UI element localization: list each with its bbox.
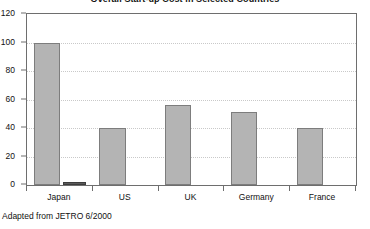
bar — [297, 128, 323, 185]
bar-group — [290, 14, 356, 185]
bar-group — [93, 14, 159, 185]
y-tick-label: 0 — [10, 180, 15, 189]
x-tick-label-france: France — [309, 192, 335, 203]
bar-group — [27, 14, 93, 185]
x-tick-mark — [289, 186, 290, 191]
chart-figure: Overall Start-up Cost in Selected Countr… — [0, 0, 370, 229]
y-tick-label: 120 — [1, 9, 15, 18]
x-tick-label-japan: Japan — [47, 192, 70, 203]
bar — [99, 128, 125, 185]
y-tick-label: 20 — [6, 151, 15, 160]
y-axis: 020406080100120 — [0, 13, 22, 186]
x-axis: JapanUSUKGermanyFrance — [26, 192, 357, 206]
bar — [34, 43, 60, 186]
bar-group — [224, 14, 290, 185]
y-tick-label: 100 — [1, 37, 15, 46]
y-tick-label: 80 — [6, 66, 15, 75]
x-tick-mark — [92, 186, 93, 191]
x-tick-label-us: US — [119, 192, 131, 203]
source-note: Adapted from JETRO 6/2000 — [2, 211, 112, 222]
x-tick-label-germany: Germany — [239, 192, 274, 203]
x-tick-mark — [355, 186, 356, 191]
y-tick-label: 60 — [6, 94, 15, 103]
x-tick-mark — [223, 186, 224, 191]
plot-area — [26, 13, 357, 186]
bar — [231, 112, 257, 185]
x-tick-label-uk: UK — [185, 192, 197, 203]
x-tick-mark — [158, 186, 159, 191]
bar — [165, 105, 191, 185]
chart-title: Overall Start-up Cost in Selected Countr… — [0, 0, 370, 5]
x-tick-mark — [26, 186, 27, 191]
y-tick-label: 40 — [6, 123, 15, 132]
bar-secondary — [63, 182, 87, 185]
bar-group — [159, 14, 225, 185]
